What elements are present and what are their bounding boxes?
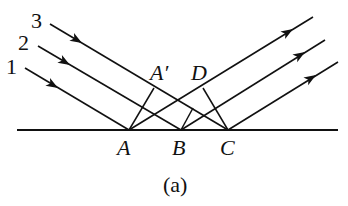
point-label-a: A	[115, 135, 131, 160]
reflection-diagram: 1 2 3 A′ D A B C (a)	[0, 0, 348, 206]
reflected-ray-3	[228, 62, 338, 130]
arrow-head-icon	[303, 71, 318, 85]
point-label-d: D	[190, 60, 207, 85]
ray-label-1: 1	[6, 54, 17, 79]
point-label-b: B	[172, 135, 185, 160]
arrow-head-icon	[280, 25, 295, 39]
incident-arrowheads	[45, 33, 84, 92]
arrow-head-icon	[292, 48, 307, 62]
incident-ray-1	[25, 68, 129, 130]
point-label-a-prime: A′	[148, 60, 169, 85]
ray-label-2: 2	[18, 30, 29, 55]
arrow-head-icon	[45, 78, 60, 92]
figure-caption: (a)	[163, 172, 187, 197]
wavefront-A-to-Aprime	[129, 88, 154, 130]
point-label-c: C	[220, 135, 235, 160]
wavefront-C-to-D	[203, 88, 228, 130]
arrow-head-icon	[57, 55, 72, 69]
reflected-arrowheads	[280, 25, 318, 85]
ray-label-3: 3	[31, 8, 42, 33]
arrow-head-icon	[69, 33, 84, 47]
